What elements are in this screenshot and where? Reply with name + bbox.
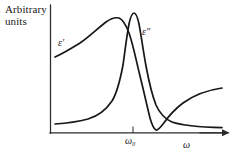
curve-epsilon-prime [55,18,222,130]
y-axis-caption-line-2: units [5,15,27,27]
figure-container: Arbitraryunits ε′ ε″ ω₀ ω [0,0,233,162]
x-axis-tick-label-omega0: ω₀ [125,135,136,146]
y-axis-caption: Arbitraryunits [5,3,47,28]
curve-label-epsilon-double-prime: ε″ [142,26,150,37]
curve-label-epsilon-prime: ε′ [58,37,64,48]
x-axis-label: ω [183,139,190,150]
y-axis-caption-line-1: Arbitrary [5,3,47,15]
